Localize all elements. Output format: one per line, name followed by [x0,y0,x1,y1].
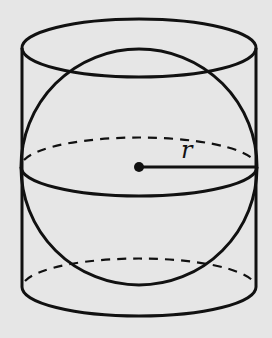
cylinder-bottom-back-arc [25,259,253,281]
sphere-in-cylinder-diagram: r [0,0,272,338]
radius-label: r [181,136,194,164]
center-point [134,162,144,172]
sphere-equator-back-arc [24,137,254,160]
cylinder-bottom-front-arc [22,287,256,316]
